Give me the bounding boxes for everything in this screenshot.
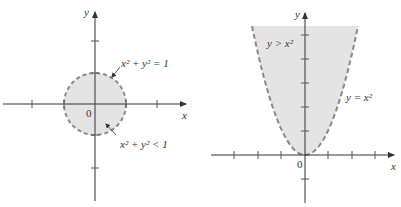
boundary-pointer-arrow: [112, 67, 120, 77]
origin-label: 0: [86, 107, 92, 119]
region-inequality-label: x² + y² < 1: [119, 138, 168, 150]
boundary-equation-label: x² + y² = 1: [120, 57, 169, 69]
disk-graph: y x 0 x² + y² = 1 x² + y² < 1: [3, 6, 187, 201]
y-axis-label: y: [83, 6, 89, 18]
origin-label: 0: [297, 158, 303, 170]
parabola-graph: y x 0 y > x² y = x²: [211, 8, 396, 203]
region-inequality-label: y > x²: [266, 37, 294, 49]
x-axis-label: x: [390, 160, 396, 172]
y-axis-label: y: [294, 8, 300, 20]
boundary-equation-label: y = x²: [345, 91, 373, 103]
figure-canvas: y x 0 x² + y² = 1 x² + y² < 1: [0, 0, 401, 207]
x-axis-label: x: [181, 109, 187, 121]
